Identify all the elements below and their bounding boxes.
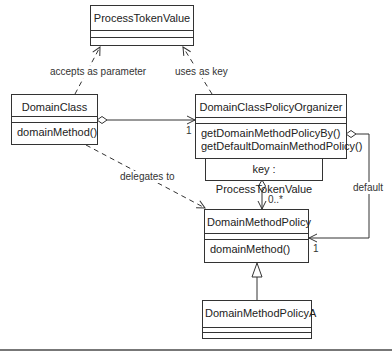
class-name: ProcessTokenValue: [91, 6, 193, 30]
class-name: DomainClassPolicyOrganizer: [196, 95, 346, 117]
class-domain-class[interactable]: DomainClass domainMethod(): [11, 94, 98, 145]
accepts-as-parameter-label: accepts as parameter: [50, 66, 146, 78]
class-name: DomainMethodPolicy: [205, 210, 308, 233]
operation: getDomainMethodPolicyBy(): [201, 127, 341, 140]
class-name: DomainMethodPolicyA: [203, 301, 311, 327]
qualifier-key-box: key : ProcessTokenValue: [205, 158, 323, 181]
aggregation-diamond-icon: [346, 131, 356, 138]
generalization: [252, 263, 262, 300]
default-label: default: [353, 182, 383, 194]
class-name: DomainClass: [12, 95, 97, 116]
organizer-multiplicity: 1: [186, 125, 192, 137]
class-domain-method-policy-a[interactable]: DomainMethodPolicyA: [202, 300, 312, 339]
operations-compartment: domainMethod(): [12, 122, 97, 142]
connector-layer: [0, 0, 392, 352]
qualified-multiplicity: 0..*: [268, 194, 283, 206]
uml-diagram-canvas: ProcessTokenValue DomainClass domainMeth…: [0, 0, 392, 352]
operation: getDefaultDomainMethodPolicy(): [201, 140, 341, 153]
uses-as-key-label: uses as key: [175, 66, 228, 78]
bottom-divider: [0, 349, 392, 351]
class-domain-method-policy[interactable]: DomainMethodPolicy domainMethod(): [204, 209, 309, 263]
generalization-triangle-icon: [252, 263, 262, 277]
operations-compartment: [203, 332, 311, 338]
operation: domainMethod(): [17, 126, 92, 139]
class-process-token-value[interactable]: ProcessTokenValue: [90, 5, 194, 46]
operations-compartment: domainMethod(): [205, 239, 308, 259]
operations-compartment: getDomainMethodPolicyBy() getDefaultDoma…: [196, 123, 346, 156]
delegates-to-label: delegates to: [120, 171, 175, 183]
class-domain-class-policy-organizer[interactable]: DomainClassPolicyOrganizer getDomainMeth…: [195, 94, 347, 159]
aggregation-diamond-icon: [97, 117, 107, 124]
organizer-aggregation: [97, 117, 195, 124]
default-multiplicity: 1: [313, 243, 319, 255]
attributes-compartment: [91, 30, 193, 37]
operations-compartment: [91, 37, 193, 45]
operation: domainMethod(): [210, 243, 303, 256]
